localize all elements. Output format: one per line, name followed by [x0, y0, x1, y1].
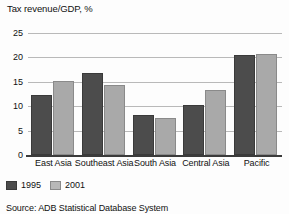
legend-swatch-icon: [50, 181, 61, 190]
bar: [205, 90, 226, 155]
y-tick-label-15: 15: [3, 77, 23, 87]
legend-label: 2001: [65, 180, 85, 190]
chart-title: Tax revenue/GDP, %: [7, 3, 93, 14]
x-tick-label: Pacific: [244, 158, 270, 168]
tax-revenue-bar-chart: Tax revenue/GDP, % 0510152025 East AsiaS…: [0, 0, 289, 214]
bar: [31, 95, 52, 155]
x-tick-label: Central Asia: [182, 158, 229, 168]
x-tick-label: Southeast Asia: [75, 158, 134, 168]
x-axis-line: [26, 155, 282, 157]
bar: [183, 105, 204, 155]
x-tick-label: East Asia: [35, 158, 72, 168]
legend-item-2001[interactable]: 2001: [50, 180, 85, 190]
source-note: Source: ADB Statistical Database System: [6, 203, 168, 213]
bar-group: [130, 33, 181, 155]
y-tick-label-20: 20: [3, 52, 23, 62]
legend-item-1995[interactable]: 1995: [6, 180, 41, 190]
bar-group: [28, 33, 79, 155]
bars-layer: [28, 33, 282, 155]
y-tick-label-0: 0: [3, 150, 23, 160]
bar: [133, 115, 154, 156]
bar: [155, 118, 176, 155]
legend-swatch-icon: [6, 181, 17, 190]
y-axis-tick-labels: 0510152025: [0, 33, 23, 155]
legend-label: 1995: [21, 180, 41, 190]
y-tick-label-25: 25: [3, 28, 23, 38]
x-axis-tick-labels: East AsiaSoutheast AsiaSouth AsiaCentral…: [28, 158, 282, 172]
bar-group: [79, 33, 130, 155]
bar: [256, 54, 277, 155]
y-tick-label-10: 10: [3, 101, 23, 111]
x-tick-label: South Asia: [134, 158, 176, 168]
y-tick-label-5: 5: [3, 126, 23, 136]
bar-group: [180, 33, 231, 155]
bar: [234, 55, 255, 155]
bar: [82, 73, 103, 155]
bar: [53, 81, 74, 155]
bar: [104, 85, 125, 155]
chart-legend: 19952001: [6, 180, 85, 190]
bar-group: [231, 33, 282, 155]
